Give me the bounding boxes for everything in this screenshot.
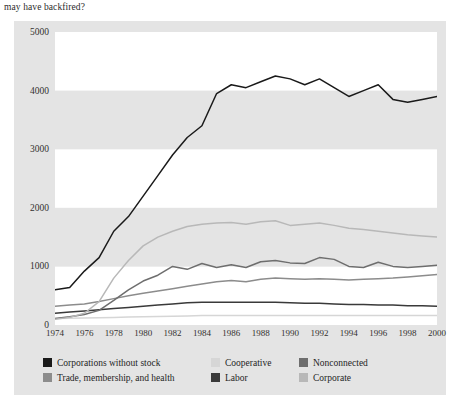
x-tick-label: 1996	[369, 328, 387, 338]
chart-page: may have backfired? 01000200030004000500…	[0, 0, 459, 402]
x-tick-label: 1976	[75, 328, 93, 338]
legend-item[interactable]: Corporate	[299, 373, 433, 383]
y-tick-label: 4000	[30, 86, 49, 96]
legend-swatch-icon	[43, 373, 52, 382]
legend-swatch-icon	[211, 373, 220, 382]
legend-item[interactable]: Corporations without stock	[43, 358, 211, 368]
chart-legend: Corporations without stockCooperativeNon…	[43, 355, 433, 385]
legend-swatch-icon	[299, 373, 308, 382]
x-tick-label: 1988	[252, 328, 270, 338]
page-caption: may have backfired?	[4, 2, 85, 12]
x-tick-label: 1998	[399, 328, 417, 338]
x-tick-label: 1986	[222, 328, 240, 338]
x-tick-label: 1994	[340, 328, 358, 338]
x-tick-label: 1990	[281, 328, 299, 338]
legend-swatch-icon	[211, 358, 220, 367]
x-tick-label: 1974	[46, 328, 64, 338]
legend-label: Corporations without stock	[57, 358, 160, 368]
plot-area	[55, 32, 437, 325]
y-tick-label: 5000	[30, 27, 49, 37]
legend-label: Corporate	[313, 373, 351, 383]
legend-item[interactable]: Nonconnected	[299, 358, 433, 368]
x-tick-label: 1982	[164, 328, 182, 338]
legend-swatch-icon	[43, 358, 52, 367]
x-tick-label: 1992	[310, 328, 328, 338]
x-axis-labels: 1974197619781980198219841986198819901992…	[55, 328, 437, 342]
x-tick-label: 1980	[134, 328, 152, 338]
x-tick-label: 1978	[105, 328, 123, 338]
y-tick-label: 2000	[30, 203, 49, 213]
x-tick-label: 2000	[428, 328, 446, 338]
legend-label: Nonconnected	[313, 358, 368, 368]
y-tick-label: 3000	[30, 144, 49, 154]
legend-label: Cooperative	[225, 358, 271, 368]
legend-label: Trade, membership, and health	[57, 373, 175, 383]
legend-item[interactable]: Labor	[211, 373, 299, 383]
legend-item[interactable]: Cooperative	[211, 358, 299, 368]
legend-label: Labor	[225, 373, 248, 383]
line-chart-svg	[55, 32, 437, 325]
legend-item[interactable]: Trade, membership, and health	[43, 373, 211, 383]
figure-panel: 010002000300040005000 197419761978198019…	[14, 21, 446, 395]
y-axis-labels: 010002000300040005000	[14, 32, 52, 325]
legend-swatch-icon	[299, 358, 308, 367]
x-tick-label: 1984	[193, 328, 211, 338]
y-tick-label: 1000	[30, 261, 49, 271]
